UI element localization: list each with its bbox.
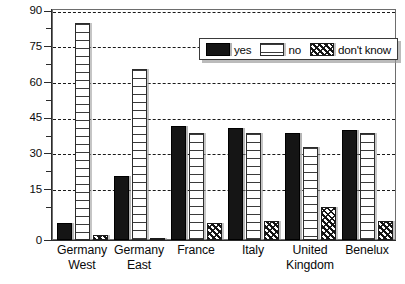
x-axis-labels: Germany West Germany East France Italy U… [52, 243, 396, 283]
bar-united-kingdom-yes[interactable] [285, 133, 300, 240]
y-label-45: 45 [2, 112, 42, 123]
white-hatch-swatch-icon [260, 43, 284, 56]
x-label-line1: France [177, 243, 215, 257]
y-tick-90 [44, 11, 51, 12]
bar-italy-yes[interactable] [228, 128, 243, 240]
y-tick-minor-67 [46, 64, 51, 65]
legend-item-yes[interactable]: yes [206, 43, 251, 56]
legend-label-dont-know: don't know [338, 43, 391, 56]
legend-item-dont-know[interactable]: don't know [310, 43, 391, 56]
y-tick-15 [44, 189, 51, 190]
y-tick-30 [44, 153, 51, 154]
solid-black-swatch-icon [206, 43, 230, 56]
y-tick-0 [44, 240, 51, 241]
y-label-0: 0 [2, 235, 42, 246]
y-label-30: 30 [2, 148, 42, 159]
y-label-90: 90 [2, 5, 42, 16]
legend-label-yes: yes [234, 43, 251, 56]
x-label-line2: Kingdom [277, 258, 343, 273]
y-tick-75 [44, 46, 51, 47]
bar-chart: 90 75 60 45 30 15 0 Germany West Germany… [0, 0, 405, 284]
x-axis-line [51, 240, 396, 241]
y-label-60: 60 [2, 77, 42, 88]
x-label-line1: Germany [57, 243, 107, 257]
x-label-line1: Germany [114, 243, 164, 257]
y-tick-minor-22 [46, 171, 51, 172]
bar-group-germany-west [55, 9, 109, 240]
y-tick-45 [44, 118, 51, 119]
x-label-line1: Benelux [345, 243, 389, 257]
bar-germany-east-yes[interactable] [114, 176, 129, 240]
bar-united-kingdom-dont-know[interactable] [321, 207, 336, 240]
y-tick-minor-52 [46, 100, 51, 101]
bar-group-germany-east [112, 9, 166, 240]
y-axis-line [51, 9, 52, 240]
y-tick-minor-7 [46, 207, 51, 208]
y-label-75: 75 [2, 41, 42, 52]
bar-italy-no[interactable] [246, 133, 261, 240]
y-axis-labels: 90 75 60 45 30 15 0 [0, 0, 42, 284]
bar-italy-dont-know[interactable] [264, 221, 279, 240]
bar-france-yes[interactable] [171, 126, 186, 240]
y-tick-minor-82 [46, 28, 51, 29]
y-label-15: 15 [2, 184, 42, 195]
legend-label-no: no [288, 43, 301, 56]
bar-benelux-no[interactable] [360, 133, 375, 240]
bar-germany-west-yes[interactable] [57, 223, 72, 240]
bar-germany-west-no[interactable] [75, 23, 90, 240]
bar-benelux-dont-know[interactable] [378, 221, 393, 240]
dense-hatch-swatch-icon [310, 43, 334, 56]
bar-france-dont-know[interactable] [207, 223, 222, 240]
x-label-line1: Italy [242, 243, 264, 257]
chart-legend: yes no don't know [199, 38, 398, 60]
x-label-benelux: Benelux [334, 243, 400, 258]
legend-item-no[interactable]: no [260, 43, 301, 56]
bar-germany-east-no[interactable] [132, 69, 147, 240]
bar-france-no[interactable] [189, 133, 204, 240]
x-label-line1: United [293, 243, 328, 257]
bar-united-kingdom-no[interactable] [303, 147, 318, 240]
x-label-line2: East [106, 258, 172, 273]
y-tick-60 [44, 82, 51, 83]
bar-benelux-yes[interactable] [342, 130, 357, 240]
y-tick-minor-37 [46, 136, 51, 137]
